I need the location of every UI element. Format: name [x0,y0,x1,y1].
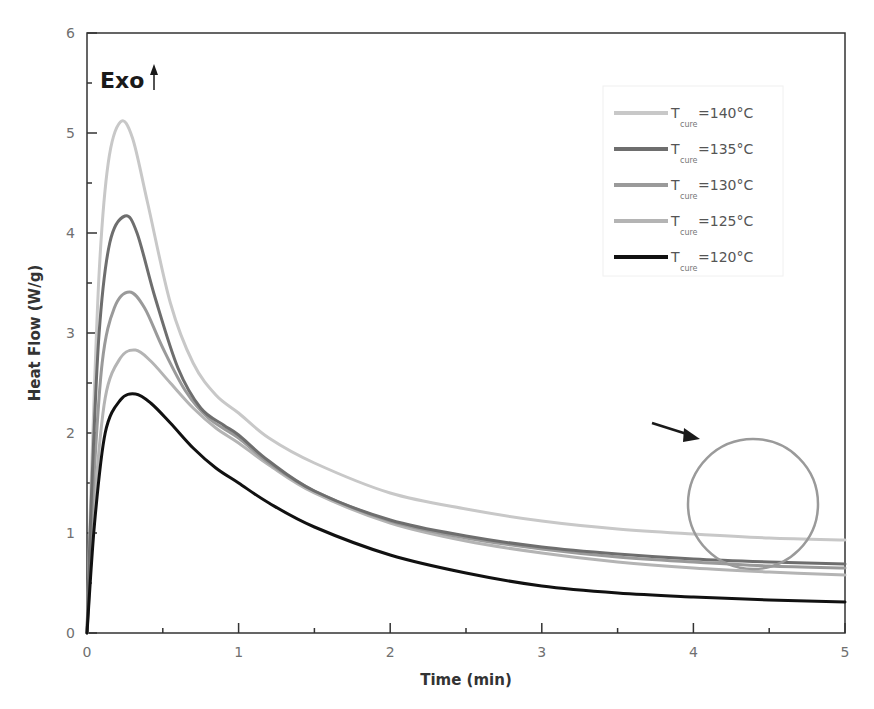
legend-label-value: =140°C [698,105,753,121]
y-tick-labels: 0123456 [66,25,75,641]
legend-label: T [670,105,680,121]
legend-label-subscript: cure [680,264,698,273]
x-axis-title: Time (min) [420,671,512,689]
x-tick-label: 1 [234,644,243,660]
legend-label: T [670,249,680,265]
y-tick-label: 0 [66,625,75,641]
y-tick-label: 1 [66,525,75,541]
heat-flow-chart: 012345 0123456 Time (min) Heat Flow (W/g… [0,0,874,709]
legend-label: T [670,177,680,193]
legend-label-value: =120°C [698,249,753,265]
x-tick-label: 3 [537,644,546,660]
legend-label-value: =125°C [698,213,753,229]
x-tick-label: 2 [386,644,395,660]
y-tick-label: 6 [66,25,75,41]
y-tick-label: 2 [66,425,75,441]
legend-label-subscript: cure [680,120,698,129]
exo-label: Exo [100,68,144,93]
y-axis-title: Heat Flow (W/g) [26,265,44,402]
x-tick-label: 0 [83,644,92,660]
y-tick-label: 5 [66,125,75,141]
y-tick-label: 3 [66,325,75,341]
exo-up-arrow-icon [150,64,158,90]
series-line-120 [87,394,845,633]
legend-label-value: =130°C [698,177,753,193]
x-tick-label: 4 [689,644,698,660]
legend-label-value: =135°C [698,141,753,157]
annotation-arrow-icon [652,423,700,442]
series-line-125 [87,350,845,633]
x-tick-label: 5 [841,644,850,660]
x-tick-labels: 012345 [83,644,850,660]
legend-label: T [670,141,680,157]
legend-label: T [670,213,680,229]
highlight-circle [688,439,818,569]
legend-label-subscript: cure [680,228,698,237]
y-tick-label: 4 [66,225,75,241]
legend-label-subscript: cure [680,156,698,165]
legend-label-subscript: cure [680,192,698,201]
series-line-130 [87,292,845,633]
